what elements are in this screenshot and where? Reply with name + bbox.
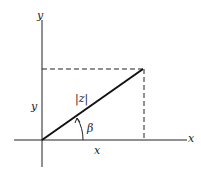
x-axis-label: x	[188, 133, 194, 144]
y-component-label: y	[31, 101, 37, 112]
angle-label: β	[87, 123, 93, 134]
complex-plane-diagram	[0, 0, 201, 177]
y-axis-label: y	[37, 10, 43, 21]
vector-magnitude-label: |z|	[75, 93, 88, 104]
x-component-label: x	[94, 145, 100, 156]
